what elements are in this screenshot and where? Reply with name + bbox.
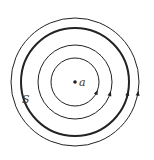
surface-label-s: S	[22, 93, 30, 106]
center-point	[73, 80, 77, 84]
concentric-circles-diagram: a S	[0, 0, 154, 160]
direction-arrows	[94, 90, 140, 97]
arrow-icon	[94, 90, 98, 95]
arrow-icon	[108, 91, 112, 96]
arrow-icon	[136, 91, 140, 96]
center-label: a	[79, 76, 86, 89]
